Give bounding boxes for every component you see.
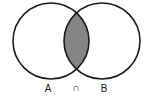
intersection-symbol: ∩ xyxy=(72,82,79,93)
set-b-label: B xyxy=(101,83,108,94)
set-a-label: A xyxy=(45,83,52,94)
venn-diagram: A ∩ B xyxy=(0,0,147,96)
